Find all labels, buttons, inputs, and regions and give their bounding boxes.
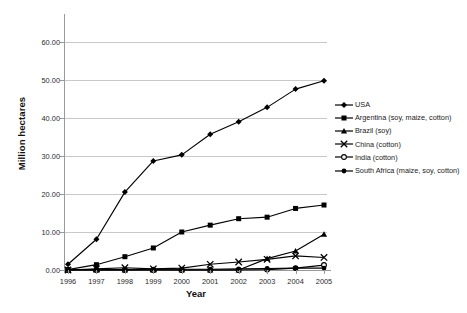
y-tick-label: 0.00	[2, 266, 60, 275]
legend-marker-cross-icon	[333, 138, 355, 150]
legend-item-4[interactable]: India (cotton)	[333, 151, 465, 164]
legend-item-5[interactable]: South Africa (maize, soy, cotton)	[333, 164, 465, 177]
y-tick-mark	[60, 80, 64, 81]
chart-container: Million hectares Year USAArgentina (soy,…	[0, 0, 467, 313]
data-point-square	[342, 115, 347, 120]
legend-label: USA	[355, 101, 370, 108]
gridline	[65, 118, 327, 119]
y-tick-label: 10.00	[2, 228, 60, 237]
legend-item-1[interactable]: Argentina (soy, maize, cotton)	[333, 111, 465, 124]
data-point-circle-open	[342, 155, 347, 160]
legend-marker-circle-filled-icon	[333, 165, 355, 177]
legend-item-0[interactable]: USA	[333, 98, 465, 111]
y-axis-title: Million hectares	[16, 74, 27, 194]
x-tick-label: 2001	[202, 277, 218, 286]
gridline	[65, 156, 327, 157]
y-tick-mark	[60, 194, 64, 195]
legend-label: Brazil (soy)	[355, 127, 392, 134]
legend: USAArgentina (soy, maize, cotton)Brazil …	[333, 98, 465, 177]
x-tick-mark	[210, 270, 211, 274]
x-tick-mark	[125, 270, 126, 274]
x-tick-label: 2000	[174, 277, 190, 286]
y-tick-label: 20.00	[2, 190, 60, 199]
legend-marker-triangle-icon	[333, 125, 355, 137]
x-tick-mark	[153, 270, 154, 274]
legend-item-2[interactable]: Brazil (soy)	[333, 124, 465, 137]
x-tick-label: 1997	[88, 277, 104, 286]
legend-label: India (cotton)	[355, 154, 398, 161]
x-axis-line	[65, 270, 331, 271]
x-tick-label: 1998	[117, 277, 133, 286]
gridline	[65, 194, 327, 195]
x-tick-mark	[267, 270, 268, 274]
gridline	[65, 80, 327, 81]
y-tick-label: 50.00	[2, 76, 60, 85]
x-tick-label: 2003	[259, 277, 275, 286]
gridline	[65, 42, 327, 43]
legend-label: Argentina (soy, maize, cotton)	[355, 114, 451, 121]
y-tick-mark	[60, 232, 64, 233]
legend-label: China (cotton)	[355, 141, 401, 148]
data-point-circle-filled	[342, 168, 347, 173]
gridline	[65, 232, 327, 233]
y-tick-mark	[60, 270, 64, 271]
y-tick-label: 60.00	[2, 38, 60, 47]
legend-marker-square-icon	[333, 112, 355, 124]
x-tick-label: 2002	[230, 277, 246, 286]
x-tick-label: 2004	[287, 277, 303, 286]
legend-marker-diamond-icon	[333, 99, 355, 111]
x-tick-mark	[96, 270, 97, 274]
legend-marker-circle-open-icon	[333, 151, 355, 163]
x-tick-mark	[182, 270, 183, 274]
x-tick-mark	[239, 270, 240, 274]
x-tick-mark	[324, 270, 325, 274]
legend-item-3[interactable]: China (cotton)	[333, 138, 465, 151]
x-tick-mark	[296, 270, 297, 274]
plot-area	[65, 23, 327, 270]
x-tick-label: 1996	[60, 277, 76, 286]
y-tick-label: 40.00	[2, 114, 60, 123]
y-tick-mark	[60, 42, 64, 43]
y-tick-mark	[60, 118, 64, 119]
y-tick-mark	[60, 156, 64, 157]
legend-label: South Africa (maize, soy, cotton)	[355, 167, 460, 174]
x-tick-label: 2005	[316, 277, 332, 286]
data-point-diamond	[341, 102, 347, 108]
x-tick-mark	[68, 270, 69, 274]
x-tick-label: 1999	[145, 277, 161, 286]
x-axis-title: Year	[65, 288, 327, 299]
y-tick-label: 30.00	[2, 152, 60, 161]
